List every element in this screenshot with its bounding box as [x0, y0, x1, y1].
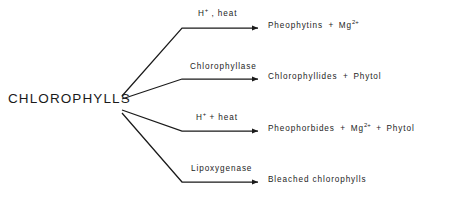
formula-superscript: 2+	[352, 19, 359, 25]
condition-base: H	[198, 9, 205, 18]
condition-base: Chlorophyllase	[190, 62, 257, 71]
formula-superscript: 2+	[364, 122, 371, 128]
product-text: Phytol	[353, 72, 381, 81]
product-text: Bleached chlorophylls	[268, 175, 367, 184]
node-chlorophylls: CHLOROPHYLLS	[8, 91, 120, 106]
chlorophyll-degradation-diagram: CHLOROPHYLLS H+ , heat Chlorophyllase H+…	[0, 0, 452, 204]
condition-rest: + heat	[206, 113, 238, 122]
condition-label-pheophytins: H+ , heat	[198, 9, 237, 18]
condition-rest: , heat	[208, 9, 237, 18]
plus-separator: +	[371, 124, 387, 133]
arrow-branch-chlorophyllides	[122, 79, 258, 99]
formula: Mg2+	[351, 124, 371, 133]
condition-label-lipoxygenase: Lipoxygenase	[191, 164, 252, 173]
plus-separator: +	[323, 21, 339, 30]
product-label-pheophorbides: Pheophorbides + Mg2+ + Phytol	[268, 124, 415, 133]
product-text: Chlorophyllides	[268, 72, 337, 81]
condition-base: H	[196, 113, 203, 122]
product-label-chlorophyllides: Chlorophyllides + Phytol	[268, 72, 382, 81]
product-label-pheophytins: Pheophytins + Mg2+	[268, 21, 359, 30]
product-text: Phytol	[386, 124, 414, 133]
plus-separator: +	[337, 72, 353, 81]
formula: Mg2+	[339, 21, 359, 30]
product-text: Pheophorbides	[268, 124, 335, 133]
product-text: Pheophytins	[268, 21, 323, 30]
condition-label-pheophorbides: H+ + heat	[196, 113, 238, 122]
condition-label-chlorophyllase: Chlorophyllase	[190, 62, 257, 71]
plus-separator: +	[335, 124, 351, 133]
product-label-bleached: Bleached chlorophylls	[268, 175, 367, 184]
condition-base: Lipoxygenase	[191, 164, 252, 173]
